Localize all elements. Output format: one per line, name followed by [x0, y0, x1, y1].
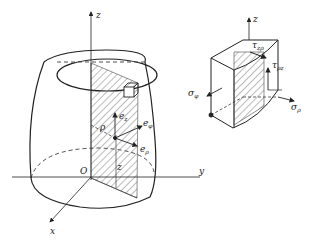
- diagram-canvas: z y x O ρ z ez eφ eρ z τzρ τρz σφ σρ: [0, 0, 311, 242]
- element-z-label: z: [252, 14, 258, 24]
- stress-hatched-plane: [234, 52, 264, 125]
- sigma-phi-arrow: [207, 88, 222, 96]
- y-axis-label: y: [198, 166, 205, 176]
- origin-label: O: [80, 166, 88, 176]
- cylinder-figure: [12, 12, 200, 222]
- sigma-phi-label: σφ: [188, 88, 199, 100]
- sigma-rho-arrow: [278, 97, 294, 101]
- x-axis: [50, 177, 91, 222]
- e-phi-label: eφ: [143, 118, 153, 130]
- e-rho-label: eρ: [140, 144, 149, 156]
- x-axis-label: x: [50, 226, 55, 236]
- sigma-rho-label: σρ: [291, 102, 301, 114]
- rho-label: ρ: [99, 122, 106, 132]
- z-axis-label: z: [95, 10, 101, 20]
- tau-zp-label: τzρ: [252, 40, 264, 52]
- stress-element: [207, 18, 294, 128]
- z-height-label: z: [116, 162, 122, 172]
